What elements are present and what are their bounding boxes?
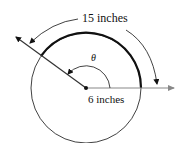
radius-label: 6 inches: [88, 93, 124, 105]
angle-arc: [68, 66, 110, 88]
angle-label: θ: [91, 52, 96, 63]
center-point: [84, 86, 88, 90]
arc-length-label: 15 inches: [82, 11, 128, 25]
arc-length-indicator-left: [30, 19, 78, 43]
arc-length-diagram: 15 inches θ 6 inches: [0, 0, 186, 143]
